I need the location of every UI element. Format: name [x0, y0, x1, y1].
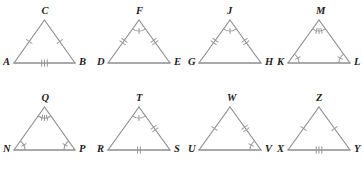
triangle-5-left-label: N [3, 144, 11, 155]
triangle-6-left-label: R [97, 144, 104, 155]
triangle-6-apex-label: T [136, 93, 142, 104]
triangle-6-right-label: S [174, 144, 180, 155]
triangle-5-right-label: P [79, 144, 85, 155]
triangle-1-apex-label: C [42, 6, 49, 17]
triangle-5-apex-label: Q [42, 93, 50, 104]
triangle-8-left-label: X [277, 144, 284, 155]
triangle-3-left-label: G [188, 57, 196, 68]
triangle-right-side [45, 107, 76, 150]
triangle-8-apex-label: Z [316, 93, 322, 104]
triangle-2-apex-label: F [136, 6, 143, 17]
triangle-2-left-label: D [97, 57, 105, 68]
triangle-right-side [319, 20, 350, 63]
triangle-left-side [14, 107, 45, 150]
triangle-right-side [230, 20, 261, 63]
triangle-left-side [288, 20, 319, 63]
triangle-left-side [108, 20, 139, 63]
triangle-8-right-label: Y [354, 144, 360, 155]
triangle-right-side [230, 107, 261, 150]
triangle-3-apex-label: J [227, 6, 232, 17]
triangle-left-side [199, 20, 230, 63]
triangle-right-side [139, 107, 170, 150]
triangle-4-apex-label: M [316, 6, 325, 17]
triangle-right-side [139, 20, 170, 63]
triangle-7-left-label: U [188, 144, 196, 155]
triangle-7-apex-label: W [227, 93, 236, 104]
triangle-left-side [108, 107, 139, 150]
triangle-figure-sheet: CABFDEJGHMKLQNPTRSWUVZXY [0, 0, 363, 175]
triangle-1-right-label: B [79, 57, 86, 68]
triangle-2-right-label: E [174, 57, 181, 68]
triangle-1-left-label: A [3, 57, 10, 68]
triangle-4-left-label: K [277, 57, 284, 68]
triangle-4-right-label: L [354, 57, 360, 68]
